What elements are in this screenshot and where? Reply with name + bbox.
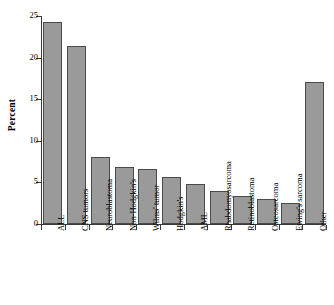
- y-tick-label: 10: [30, 135, 39, 145]
- x-axis-label: Hodgkin's: [175, 196, 185, 231]
- bar: [305, 82, 324, 224]
- y-axis-title-text: Percent: [7, 99, 17, 131]
- x-axis-label: Neuroblastoma: [104, 179, 114, 231]
- x-axis-label: Retinoblastoma: [246, 178, 256, 231]
- x-axis-label: CNS tumors: [80, 189, 90, 231]
- x-axis-label: AML: [199, 212, 209, 231]
- y-tick-label: 20: [30, 52, 39, 62]
- x-axis-label: ALL: [56, 214, 66, 231]
- x-axis-label: Osteosarcoma: [270, 183, 280, 231]
- x-axis-label: Ewing's sarcoma: [294, 174, 304, 231]
- x-axis-label: Other: [318, 212, 328, 231]
- x-axis-label: Wilms' tumor: [151, 185, 161, 231]
- x-axis-label: Rhabdomyosarcoma: [223, 161, 233, 231]
- y-tick-label: 0: [34, 218, 38, 228]
- bar-chart: Percent 0510152025 ALLCNS tumorsNeurobla…: [0, 0, 334, 305]
- x-axis-label: Non-Hodgkin's: [128, 179, 138, 231]
- y-axis-line: [41, 16, 42, 225]
- y-tick-label: 15: [30, 93, 39, 103]
- y-axis-title: Percent: [0, 0, 24, 230]
- x-tick-mark: [41, 225, 42, 230]
- y-tick-label: 5: [34, 176, 38, 186]
- bar: [43, 22, 62, 224]
- y-tick-label: 25: [30, 10, 39, 20]
